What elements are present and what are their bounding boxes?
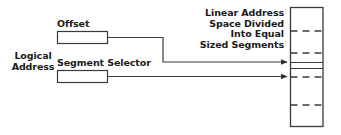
logical-address-label: Logical Address (10, 51, 56, 72)
segment-selector-label: Segment Selector (57, 58, 151, 69)
offset-box (58, 32, 108, 44)
segmentation-diagram: Logical Address Offset Segment Selector … (0, 0, 341, 135)
linear-address-space-label: Linear Address Space Divided Into Equal … (196, 8, 284, 50)
linear-address-space-box (291, 8, 324, 127)
segment-selector-box (58, 71, 108, 83)
offset-label: Offset (57, 19, 89, 30)
